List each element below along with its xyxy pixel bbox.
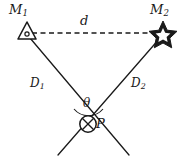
label-m1-subscript: 1: [23, 8, 28, 18]
line-d1-extended: [30, 38, 129, 155]
crossed-circle-marker-icon: [80, 116, 96, 132]
label-d2-subscript: 2: [141, 82, 146, 91]
label-d1-subscript: 1: [40, 82, 45, 91]
diagram-svg: [0, 0, 178, 164]
label-m2-subscript: 2: [164, 8, 169, 18]
label-p: P: [96, 117, 105, 130]
label-theta: θ: [83, 97, 90, 109]
line-d2-extended: [58, 38, 160, 155]
label-m2: M2: [150, 3, 169, 17]
angle-arc: [74, 109, 103, 116]
label-d2: D2: [131, 77, 146, 91]
star-marker-icon: [149, 21, 177, 48]
label-m1: M1: [9, 3, 28, 17]
label-baseline-d: d: [80, 14, 88, 27]
label-d1: D1: [30, 77, 45, 91]
triangle-marker-icon: [18, 22, 36, 39]
figure-canvas: M1 M2 d D1 D2 θ P: [0, 0, 178, 164]
